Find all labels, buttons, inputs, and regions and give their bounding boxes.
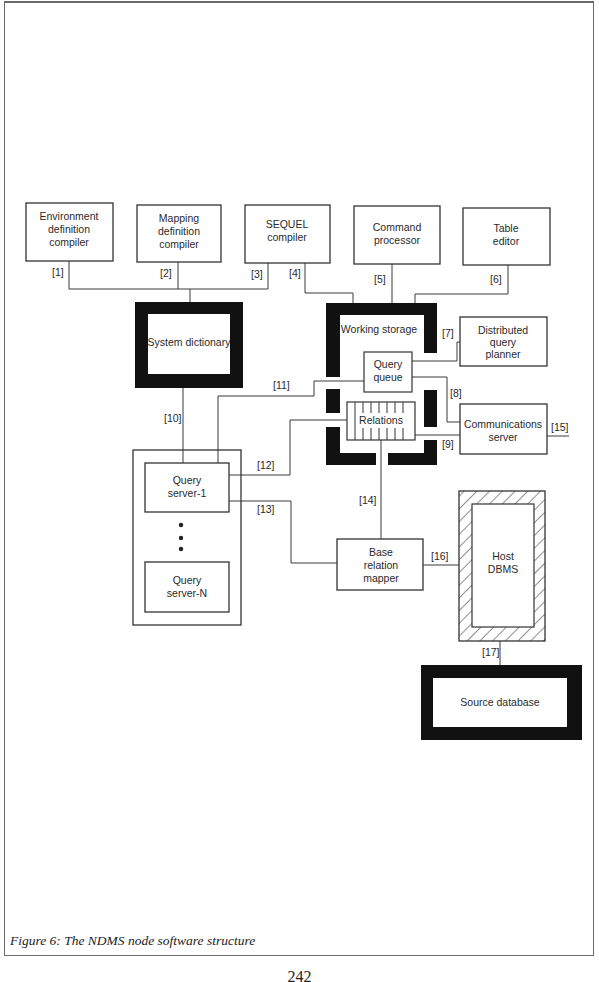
brm-label-1: Base	[369, 546, 393, 558]
connector-11	[218, 381, 364, 463]
tag-7: [7]	[442, 327, 454, 339]
tag-14: [14]	[359, 494, 377, 506]
query-server-n-label-2: server-N	[167, 587, 207, 599]
tag-6: [6]	[490, 273, 502, 285]
brm-label-2: relation	[364, 559, 399, 571]
tag-1: [1]	[52, 266, 64, 278]
query-server-1-label-1: Query	[173, 474, 202, 486]
sequel-compiler-label-1: SEQUEL	[266, 218, 309, 230]
tag-13: [13]	[257, 503, 275, 515]
sequel-compiler-label-2: compiler	[267, 231, 307, 243]
source-database-label: Source database	[460, 696, 540, 708]
relations-label: Relations	[359, 414, 403, 426]
tag-10: [10]	[164, 412, 182, 424]
tag-11: [11]	[273, 379, 290, 391]
command-processor-label-1: Command	[373, 221, 422, 233]
tag-16: [16]	[431, 550, 449, 562]
query-queue-label-1: Query	[374, 358, 403, 370]
mapping-compiler-label-3: compiler	[159, 238, 199, 250]
tag-12: [12]	[257, 459, 275, 471]
brm-label-3: mapper	[363, 572, 399, 584]
dqp-label-2: query	[490, 336, 517, 348]
connector-4	[305, 263, 353, 303]
figure-caption: Figure 6: The NDMS node software structu…	[10, 933, 255, 949]
query-queue-label-2: queue	[373, 371, 402, 383]
mapping-compiler-label-2: definition	[158, 225, 200, 237]
query-server-1-label-2: server-1	[168, 487, 207, 499]
table-editor-label-1: Table	[493, 222, 518, 234]
env-compiler-label-2: definition	[48, 223, 90, 235]
tag-2: [2]	[160, 267, 172, 279]
system-dictionary-label: System dictionary	[148, 336, 232, 348]
mapping-compiler-label-1: Mapping	[159, 212, 199, 224]
figure-page: Environment definition compiler Mapping …	[0, 0, 599, 982]
page-number: 242	[0, 968, 599, 982]
tag-3: [3]	[251, 268, 263, 280]
tag-17: [17]	[482, 646, 500, 658]
query-server-n-label-1: Query	[173, 574, 202, 586]
connector-13	[229, 501, 337, 563]
ellipsis-dots	[179, 523, 183, 551]
comm-server-label-2: server	[488, 431, 518, 443]
host-dbms-label-2: DBMS	[488, 563, 518, 575]
host-dbms-label-1: Host	[492, 550, 514, 562]
tag-15: [15]	[551, 421, 569, 433]
table-editor-label-2: editor	[493, 235, 520, 247]
command-processor-label-2: processor	[374, 234, 421, 246]
dqp-label-1: Distributed	[478, 324, 528, 336]
ndms-diagram: Environment definition compiler Mapping …	[0, 0, 599, 982]
env-compiler-label-3: compiler	[49, 236, 89, 248]
tag-5: [5]	[374, 273, 386, 285]
working-storage-label: Working storage	[341, 323, 417, 335]
tag-4: [4]	[289, 267, 301, 279]
env-compiler-label-1: Environment	[40, 210, 99, 222]
tag-9: [9]	[442, 438, 454, 450]
tag-8: [8]	[450, 387, 462, 399]
dqp-label-3: planner	[485, 348, 521, 360]
comm-server-label-1: Communications	[464, 418, 542, 430]
